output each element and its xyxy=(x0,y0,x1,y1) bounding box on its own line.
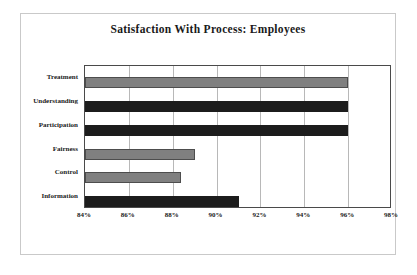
bar-row xyxy=(85,90,392,114)
x-tick-label: 96% xyxy=(340,211,354,219)
bar-control xyxy=(85,172,181,183)
chart-title: Satisfaction With Process: Employees xyxy=(21,23,395,35)
x-tick-label: 88% xyxy=(165,211,179,219)
chart-figure: Satisfaction With Process: Employees Tre… xyxy=(20,13,396,255)
y-label-fairness: Fairness xyxy=(18,145,78,153)
x-tick-label: 86% xyxy=(121,211,135,219)
bar-fairness xyxy=(85,149,195,160)
bar-row xyxy=(85,66,392,90)
bar-row xyxy=(85,161,392,185)
bars-layer xyxy=(85,66,390,207)
bar-row xyxy=(85,114,392,138)
y-label-information: Information xyxy=(18,192,78,200)
bar-row xyxy=(85,185,392,209)
y-label-control: Control xyxy=(18,168,78,176)
x-tick-label: 84% xyxy=(77,211,91,219)
x-tick-label: 98% xyxy=(384,211,398,219)
bar-participation xyxy=(85,125,348,136)
y-label-participation: Participation xyxy=(18,121,78,129)
y-axis-category-labels: TreatmentUnderstandingParticipationFairn… xyxy=(21,65,81,208)
bar-information xyxy=(85,196,239,207)
bar-treatment xyxy=(85,77,348,88)
x-axis-tick-labels: 84%86%88%90%92%94%96%98% xyxy=(84,211,391,225)
y-label-treatment: Treatment xyxy=(18,73,78,81)
plot-area xyxy=(84,65,391,208)
bar-row xyxy=(85,138,392,162)
bar-understanding xyxy=(85,101,348,112)
x-tick-label: 90% xyxy=(209,211,223,219)
y-label-understanding: Understanding xyxy=(18,97,78,105)
x-tick-label: 94% xyxy=(296,211,310,219)
x-tick-label: 92% xyxy=(252,211,266,219)
